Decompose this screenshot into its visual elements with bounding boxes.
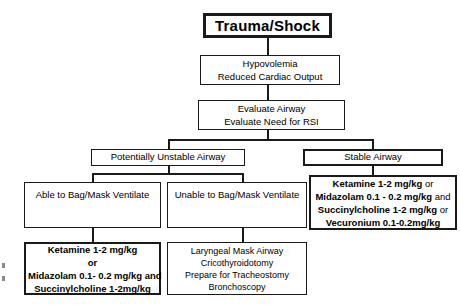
node-able-drug-regimen-line3: Midazolam 0.1- 0.2 mg/kg and bbox=[28, 269, 157, 282]
node-evaluate-airway-line2: Evaluate Need for RSI bbox=[203, 116, 340, 129]
node-stable-airway: Stable Airway bbox=[303, 149, 443, 166]
node-potentially-unstable-airway-label: Potentially Unstable Airway bbox=[92, 151, 244, 164]
node-potentially-unstable-airway: Potentially Unstable Airway bbox=[91, 149, 245, 166]
node-hypovolemia: Hypovolemia Reduced Cardiac Output bbox=[200, 55, 340, 85]
scan-artifact bbox=[2, 276, 5, 281]
split-bar-airway bbox=[168, 139, 374, 141]
node-unable-bag-mask-ventilate: Unable to Bag/Mask Ventilate bbox=[167, 182, 307, 228]
flowchart-canvas: Trauma/Shock Hypovolemia Reduced Cardiac… bbox=[0, 0, 460, 305]
node-stable-airway-label: Stable Airway bbox=[305, 151, 441, 164]
node-unable-procedures-line3: Prepare for Tracheostomy bbox=[170, 269, 304, 281]
node-stable-airway-drugs-line1: Ketamine 1-2 mg/kg or bbox=[314, 177, 452, 190]
node-hypovolemia-line1: Hypovolemia bbox=[205, 58, 335, 71]
node-unable-procedures-line4: Bronchoscopy bbox=[170, 281, 304, 293]
node-hypovolemia-line2: Reduced Cardiac Output bbox=[205, 71, 335, 84]
node-able-drug-regimen-line2: or bbox=[28, 256, 157, 269]
node-able-drug-regimen: Ketamine 1-2 mg/kg or Midazolam 0.1- 0.2… bbox=[24, 242, 161, 295]
node-evaluate-airway: Evaluate Airway Evaluate Need for RSI bbox=[198, 100, 345, 130]
split-bar-ventilate bbox=[92, 173, 244, 175]
node-stable-airway-drugs-line3: Succinylcholine 1-2 mg/kg or bbox=[314, 203, 452, 216]
scan-artifact bbox=[2, 263, 5, 268]
connector-unable-to-procedures bbox=[242, 228, 244, 242]
node-stable-airway-drugs-line2: Midazolam 0.1 - 0.2 mg/kg and bbox=[314, 190, 452, 203]
connector-hypovolemia-to-evaluate bbox=[267, 85, 269, 100]
connector-able-to-drugs bbox=[92, 228, 94, 242]
connector-stable-to-drugs bbox=[372, 166, 374, 175]
node-able-drug-regimen-line4: Succinylcholine 1-2mg/kg bbox=[28, 282, 157, 295]
connector-root-to-hypovolemia bbox=[267, 38, 269, 55]
node-stable-airway-drugs-line4: Vecuronium 0.1-0.2mg/kg bbox=[314, 216, 452, 229]
node-unable-procedures-line1: Laryngeal Mask Airway bbox=[170, 245, 304, 257]
node-unable-bag-mask-ventilate-label: Unable to Bag/Mask Ventilate bbox=[168, 189, 306, 202]
node-unable-procedures: Laryngeal Mask Airway Cricothyroidotomy … bbox=[167, 242, 307, 295]
node-trauma-shock-label: Trauma/Shock bbox=[215, 17, 320, 34]
node-stable-airway-drugs: Ketamine 1-2 mg/kg or Midazolam 0.1 - 0.… bbox=[309, 175, 457, 230]
node-trauma-shock: Trauma/Shock bbox=[203, 13, 332, 38]
node-unable-procedures-line2: Cricothyroidotomy bbox=[170, 257, 304, 269]
node-able-bag-mask-ventilate-label: Able to Bag/Mask Ventilate bbox=[25, 189, 160, 202]
node-able-bag-mask-ventilate: Able to Bag/Mask Ventilate bbox=[24, 182, 161, 228]
node-able-drug-regimen-line1: Ketamine 1-2 mg/kg bbox=[28, 243, 157, 256]
node-evaluate-airway-line1: Evaluate Airway bbox=[203, 103, 340, 116]
